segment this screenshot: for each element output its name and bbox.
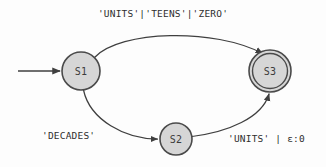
transition-s1-to-s3 — [95, 36, 263, 58]
transition-s2-to-s3 — [192, 94, 269, 137]
state-node-s2[interactable]: S2 — [160, 123, 192, 155]
fsm-diagram: S1 S2 S3 'UNITS'|'TEENS'|'ZERO' 'DECADES… — [0, 0, 326, 167]
transition-label-s1-to-s2: 'DECADES' — [42, 131, 95, 141]
state-s1-label: S1 — [75, 66, 88, 77]
state-s3-label: S3 — [264, 66, 277, 77]
transition-label-s1-to-s3: 'UNITS'|'TEENS'|'ZERO' — [0, 9, 326, 19]
state-node-s3[interactable]: S3 — [249, 50, 291, 92]
state-s2-label: S2 — [170, 134, 183, 145]
transition-label-s2-to-s3: 'UNITS' | ε:0 — [228, 134, 305, 144]
state-node-s1[interactable]: S1 — [62, 52, 100, 90]
